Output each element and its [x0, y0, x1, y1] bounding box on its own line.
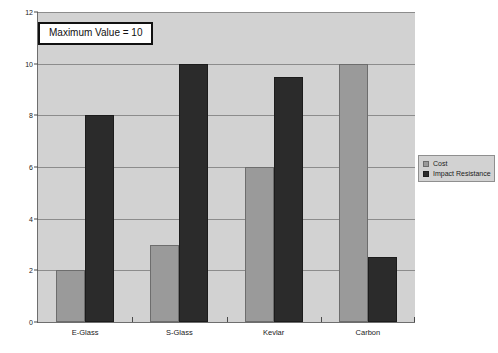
bar-s-glass-cost — [150, 245, 179, 323]
y-tick-label: 0 — [29, 319, 33, 326]
y-tick-label: 10 — [25, 60, 33, 67]
legend-swatch-cost-icon — [423, 161, 429, 167]
x-axis-label-s-glass: S-Glass — [166, 329, 193, 337]
legend-swatch-impact-resistance-icon — [423, 171, 429, 177]
bar-chart-figure: 024681012 E-GlassS-GlassKevlarCarbon Max… — [0, 0, 498, 353]
bar-s-glass-impact-resistance — [179, 64, 208, 322]
legend-item-cost: Cost — [423, 160, 491, 167]
bars-layer — [38, 12, 415, 322]
y-tick-label: 4 — [29, 215, 33, 222]
bar-e-glass-impact-resistance — [85, 115, 114, 322]
annotation-max-value: Maximum Value = 10 — [38, 22, 153, 45]
x-axis-label-kevlar: Kevlar — [263, 329, 284, 337]
bar-kevlar-impact-resistance — [274, 77, 303, 322]
y-tick-label: 8 — [29, 112, 33, 119]
legend-label-cost: Cost — [433, 160, 447, 167]
bar-carbon-impact-resistance — [368, 257, 397, 322]
x-axis-label-e-glass: E-Glass — [72, 329, 99, 337]
x-axis-label-carbon: Carbon — [356, 329, 381, 337]
y-tick-label: 2 — [29, 267, 33, 274]
bar-carbon-cost — [339, 64, 368, 322]
legend-item-impact-resistance: Impact Resistance — [423, 170, 491, 177]
bar-e-glass-cost — [56, 270, 85, 322]
y-tick-label: 12 — [25, 9, 33, 16]
bar-kevlar-cost — [245, 167, 274, 322]
y-tick-label: 6 — [29, 164, 33, 171]
plot-area: 024681012 E-GlassS-GlassKevlarCarbon — [37, 12, 415, 323]
legend-label-impact-resistance: Impact Resistance — [433, 170, 491, 177]
chart-legend: Cost Impact Resistance — [418, 155, 495, 182]
